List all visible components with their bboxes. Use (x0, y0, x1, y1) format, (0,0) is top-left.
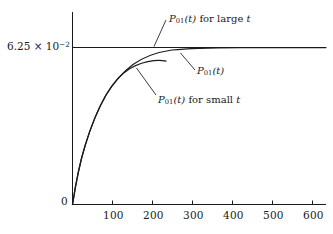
annotation-p01-p: P (197, 65, 204, 76)
series-curve-small-t (73, 60, 167, 204)
y-axis-value-exponent: −2 (59, 40, 70, 49)
y-axis-value-label: 6.25 × 10−2 (7, 41, 70, 52)
chart-figure: 6.25 × 10−2 0 100 200 300 400 500 600 P0… (0, 0, 333, 234)
annotation-large-t-var: t (247, 13, 251, 24)
annotation-p01-arg: (t) (212, 65, 224, 76)
leader-line-large-t (154, 20, 166, 47)
annotation-large-t: P01(t) for large t (169, 14, 251, 25)
x-axis-ticks (113, 201, 313, 205)
x-tick-label-600: 600 (303, 210, 324, 221)
annotation-large-t-p: P (169, 13, 176, 24)
plot-canvas (0, 0, 333, 234)
x-tick-label-300: 300 (183, 210, 204, 221)
leader-line-p01 (181, 53, 196, 70)
annotation-small-t: P01(t) for small t (158, 95, 240, 106)
annotation-small-t-p: P (158, 94, 165, 105)
x-tick-label-100: 100 (103, 210, 124, 221)
annotation-p01: P01(t) (197, 66, 224, 77)
leader-line-small-t (137, 68, 157, 95)
annotation-small-t-arg: (t) (173, 94, 185, 105)
annotation-small-t-suffix: for small (185, 94, 236, 105)
y-axis-zero-label: 0 (61, 196, 68, 207)
annotation-large-t-suffix: for large (196, 13, 246, 24)
x-tick-label-200: 200 (143, 210, 164, 221)
y-axis-value-mantissa: 6.25 × 10 (7, 40, 59, 52)
x-tick-label-500: 500 (263, 210, 284, 221)
annotation-large-t-arg: (t) (184, 13, 196, 24)
x-tick-label-400: 400 (223, 210, 244, 221)
annotation-small-t-var: t (236, 94, 240, 105)
